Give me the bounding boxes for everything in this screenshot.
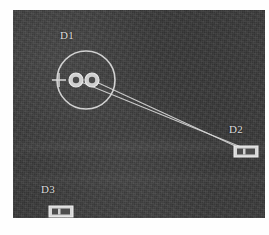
marker-label-d2: D2 (229, 124, 243, 135)
d1-crosshair-icon (52, 73, 66, 87)
marker-label-d3: D3 (41, 184, 55, 195)
connection-lines (76, 80, 246, 151)
photo-panel: D1 D2 D3 (13, 10, 265, 218)
figure-root: D1 D2 D3 (0, 0, 269, 235)
connection-line-2 (92, 80, 246, 151)
marker-label-d1: D1 (60, 30, 74, 41)
d2-rect-marker (234, 146, 258, 157)
d3-rect-marker (49, 206, 73, 217)
d1-inner-discs (69, 73, 99, 87)
